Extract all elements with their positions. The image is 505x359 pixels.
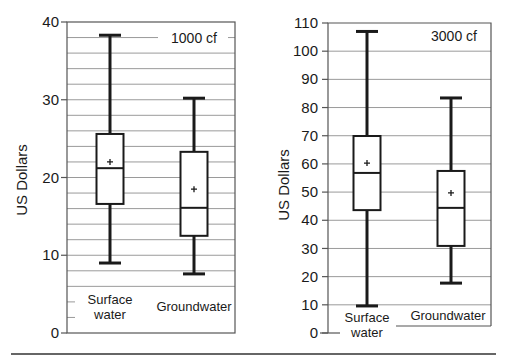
right-tick-100: 100 [293,42,318,59]
right-tick-30: 30 [301,240,318,257]
right-category-surface-water-line2: water [350,325,383,340]
left-gridlines [67,38,235,318]
right-tick-80: 80 [301,99,318,116]
left-tick-0: 0 [51,324,59,341]
right-plot-frame [328,23,491,333]
right-panel-label: 3000 cf [431,28,477,44]
right-y-axis-label: US Dollars [275,149,292,221]
right-panel: 3000 cf Surface water Groundwater 0 10 2… [275,14,491,341]
right-tick-40: 40 [301,211,318,228]
right-gridlines [328,51,491,305]
left-panel-label: 1000 cf [171,30,217,46]
left-panel: 1000 cf Surface water Groundwater 0 10 2… [13,13,235,341]
right-tick-60: 60 [301,155,318,172]
figure: 1000 cf Surface water Groundwater 0 10 2… [0,0,505,359]
right-tick-10: 10 [301,296,318,313]
left-tick-10: 10 [42,246,59,263]
right-tick-20: 20 [301,268,318,285]
left-y-ticks [61,22,67,333]
boxplot-surface-water [354,31,381,305]
boxplot-groundwater [181,98,208,274]
right-boxplots [354,31,465,305]
boxplot-surface-water [97,35,124,263]
right-category-surface-water-line1: Surface [345,310,390,325]
boxplot-groundwater [438,98,465,283]
left-boxplots [97,35,208,274]
right-tick-90: 90 [301,70,318,87]
left-category-surface-water-line1: Surface [88,292,133,307]
right-tick-70: 70 [301,127,318,144]
left-tick-30: 30 [42,91,59,108]
right-category-groundwater: Groundwater [410,308,486,323]
left-tick-40: 40 [42,13,59,30]
left-category-surface-water-line2: water [93,307,126,322]
iqr-box [181,152,208,236]
right-y-ticks [322,23,328,333]
right-tick-50: 50 [301,183,318,200]
left-y-axis-label: US Dollars [13,144,30,216]
right-tick-0: 0 [310,324,318,341]
right-tick-110: 110 [294,14,318,31]
left-category-groundwater: Groundwater [156,299,232,314]
left-tick-20: 20 [42,169,59,186]
